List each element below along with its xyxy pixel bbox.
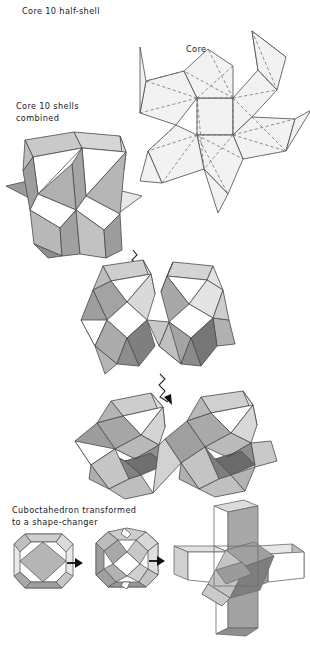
core-10-half-shell-net [140,18,310,213]
arrow-head [75,558,83,568]
net-center-square [197,98,233,135]
straight-arrow-icon [148,554,166,568]
shells-stage-two [55,258,255,378]
cubo-a-bottom [25,582,62,588]
sc-left-side [174,546,188,580]
arrow-head [157,556,165,566]
label-core-10-half-shell: Core 10 half-shell [22,6,100,18]
straight-arrow-icon [66,556,84,570]
cubo-b-bottom-notch [121,582,130,589]
sc-top-left [214,506,228,552]
shape-changer [168,494,306,644]
shells-stage-three [55,383,285,501]
core-10-shells-combined [0,118,150,258]
